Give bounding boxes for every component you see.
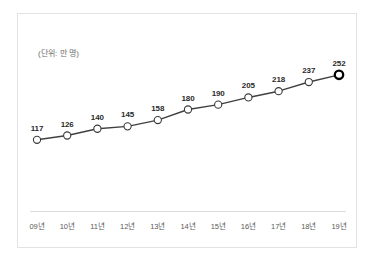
- data-point-marker: [154, 116, 161, 123]
- data-point-value-label: 252: [332, 59, 345, 68]
- data-point-value-label: 190: [212, 89, 225, 98]
- x-axis-tick-label: 16년: [241, 220, 256, 231]
- data-point-marker: [33, 136, 40, 143]
- x-axis-tick-label: 11년: [90, 220, 105, 231]
- data-point-value-label: 218: [272, 75, 285, 84]
- data-point-value-label: 205: [242, 81, 255, 90]
- data-point-value-label: 145: [121, 110, 134, 119]
- x-axis-tick-label: 19년: [331, 220, 346, 231]
- x-axis-tick-label: 18년: [301, 220, 316, 231]
- data-point-marker: [215, 101, 222, 108]
- x-axis-tick-label: 15년: [211, 220, 226, 231]
- x-axis-tick-label: 14년: [180, 220, 195, 231]
- line-chart-svg: [18, 14, 358, 249]
- x-axis-tick-label: 13년: [150, 220, 165, 231]
- plot-area: (단위: 만 명) 117126140145158180190205218237…: [18, 14, 356, 247]
- x-axis-tick-label: 10년: [60, 220, 75, 231]
- data-point-value-label: 140: [91, 113, 104, 122]
- chart-frame: (단위: 만 명) 117126140145158180190205218237…: [17, 13, 357, 248]
- data-point-marker: [245, 94, 252, 101]
- data-point-marker: [305, 78, 312, 85]
- data-point-value-label: 126: [61, 120, 74, 129]
- data-point-marker: [124, 123, 131, 130]
- x-axis-tick-label: 17년: [271, 220, 286, 231]
- data-point-marker: [94, 125, 101, 132]
- x-axis-line: [30, 211, 346, 212]
- data-point-value-label: 180: [181, 94, 194, 103]
- data-point-value-label: 158: [151, 104, 164, 113]
- data-point-marker: [184, 106, 191, 113]
- x-axis-tick-label: 09년: [29, 220, 44, 231]
- data-point-value-label: 237: [302, 66, 315, 75]
- x-axis-tick-label: 12년: [120, 220, 135, 231]
- data-point-marker-highlighted: [335, 71, 343, 79]
- data-point-marker: [64, 132, 71, 139]
- data-point-value-label: 117: [31, 124, 44, 133]
- data-point-marker: [275, 88, 282, 95]
